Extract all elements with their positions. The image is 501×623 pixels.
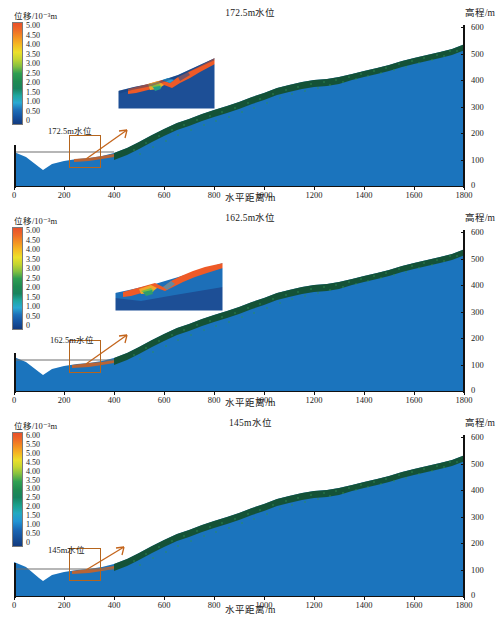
legend-title: 位移/10⁻³m [14,9,57,21]
elevation-axis-label: 高程/m [465,210,495,224]
x-axis [14,596,465,597]
x-axis [14,186,465,187]
y-tick [461,133,465,134]
y-tick-label: 200 [471,334,484,343]
y-tick [461,517,465,518]
x-axis-label: 水平距离/m [0,190,501,204]
water-level-label: 172.5m水位 [48,124,92,136]
y-tick [461,543,465,544]
legend-title: 位移/10⁻³m [14,419,57,431]
y-tick-label: 0 [471,181,475,190]
water-level-label: 145m水位 [48,543,85,555]
roi-box [69,135,101,168]
elevation-axis-label: 高程/m [465,5,495,19]
y-tick [461,338,465,339]
y-tick-label: 100 [471,361,484,370]
water-level-label: 162.5m水位 [50,333,94,345]
y-tick [461,80,465,81]
y-tick-label: 0 [471,591,475,600]
plot-area: 600 500 400 300 200 100 0 0 200 400 600 … [14,437,465,596]
y-tick [461,27,465,28]
y-tick-label: 600 [471,228,484,237]
panel-145: 145m水位 高程/m 位移/10⁻³m 6.00 5.50 5.00 4.50… [0,410,501,619]
panel-title: 162.5m水位 [0,210,501,224]
legend-title: 位移/10⁻³m [14,214,57,226]
y-tick-label: 400 [471,486,484,495]
y-tick-label: 300 [471,513,484,522]
y-tick [461,107,465,108]
x-axis-label: 水平距离/m [0,395,501,409]
y-tick [461,365,465,366]
left-axis-stub [14,563,16,598]
y-tick-label: 500 [471,460,484,469]
inset-detail-view [115,261,223,311]
panel-title: 145m水位 [0,415,501,429]
y-tick-label: 600 [471,433,484,442]
displacement-contour-figure: 172.5m水位 高程/m 位移/10⁻³m 5.00 4.50 4.00 3.… [0,0,501,623]
y-tick-label: 0 [471,386,475,395]
left-axis-stub [14,145,16,188]
inset-detail-view [118,53,215,109]
x-axis [14,391,465,392]
x-axis-label: 水平距离/m [0,602,501,616]
y-tick-label: 400 [471,76,484,85]
y-tick-label: 500 [471,255,484,264]
y-tick [461,437,465,438]
y-tick [461,285,465,286]
y-tick-label: 300 [471,308,484,317]
plot-area: 600 500 400 300 200 100 0 0 200 400 600 … [14,232,465,391]
y-tick-label: 100 [471,156,484,165]
y-tick [461,464,465,465]
y-tick [461,54,465,55]
panel-title: 172.5m水位 [0,5,501,19]
y-tick [461,160,465,161]
y-tick [461,570,465,571]
y-tick-label: 200 [471,129,484,138]
y-tick-label: 500 [471,50,484,59]
y-tick-label: 200 [471,539,484,548]
y-tick-label: 100 [471,566,484,575]
left-axis-stub [14,353,16,393]
y-tick [461,312,465,313]
y-tick [461,259,465,260]
panel-1725: 172.5m水位 高程/m 位移/10⁻³m 5.00 4.50 4.00 3.… [0,0,501,207]
plot-area: 600 500 400 300 200 100 0 0 200 400 600 [14,27,465,186]
y-tick-label: 400 [471,281,484,290]
y-tick-label: 300 [471,103,484,112]
y-tick [461,232,465,233]
y-tick-label: 600 [471,23,484,32]
panel-1625: 162.5m水位 高程/m 位移/10⁻³m 5.00 4.50 4.00 3.… [0,205,501,412]
elevation-axis-label: 高程/m [465,415,495,429]
y-tick [461,490,465,491]
